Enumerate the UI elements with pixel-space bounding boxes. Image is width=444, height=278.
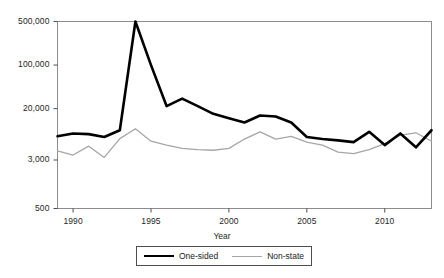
x-tick-label: 2000	[204, 216, 254, 226]
x-tick-label: 1995	[126, 216, 176, 226]
legend-label-one-sided: One-sided	[179, 251, 218, 261]
x-tick-label: 2005	[282, 216, 332, 226]
chart-figure: 500,000100,00020,0003,000500 19901995200…	[0, 0, 444, 278]
legend-swatch-one-sided	[144, 255, 174, 257]
y-tick-label: 3,000	[0, 154, 50, 164]
x-tick-label: 1990	[48, 216, 98, 226]
x-axis-title: Year	[0, 231, 444, 241]
legend-label-non-state: Non-state	[267, 251, 304, 261]
plot-frame	[58, 22, 432, 209]
legend-entry-non-state: Non-state	[232, 251, 304, 261]
series-lines	[58, 22, 432, 158]
tick-marks	[54, 22, 385, 213]
y-tick-label: 500,000	[0, 16, 50, 26]
series-line-one-sided	[58, 22, 432, 148]
y-tick-label: 100,000	[0, 59, 50, 69]
legend-entry-one-sided: One-sided	[144, 251, 218, 261]
legend-swatch-non-state	[232, 256, 262, 257]
x-tick-label: 2010	[360, 216, 410, 226]
chart-legend: One-sided Non-state	[136, 246, 312, 266]
y-tick-label: 500	[0, 203, 50, 213]
y-tick-label: 20,000	[0, 103, 50, 113]
